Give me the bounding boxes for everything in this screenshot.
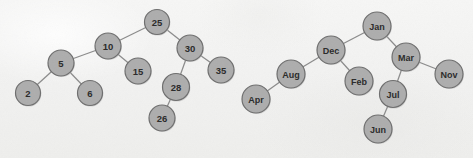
binary-search-tree-figure: 25103051528352626JanDecMarAugFebJulNovAp… [0, 0, 473, 158]
paper-grain-overlay [0, 0, 473, 158]
